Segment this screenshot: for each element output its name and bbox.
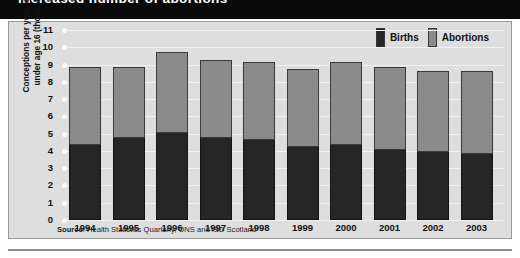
bar-segment-births[interactable] [374,149,406,220]
title-banner: increased number of abortions [0,0,520,19]
bar-segment-abortions[interactable] [69,67,101,145]
y-axis-tick-label: 5 [13,128,53,139]
y-axis-tick-label: 4 [13,145,53,156]
y-axis-tick-label: 11 [13,24,53,35]
y-axis-tick-label: 1 [13,197,53,208]
y-axis-tick-label: 10 [13,41,53,52]
x-axis-tick-label: 2000 [323,222,369,233]
page-title: increased number of abortions [18,0,228,6]
bar-segment-births[interactable] [69,144,101,220]
bar-segment-abortions[interactable] [243,62,275,140]
chart-figure: increased number of abortions Births Abo… [0,0,520,258]
bottom-divider [8,249,512,251]
source-text: : Health Statistics Quarterly, ONS and I… [83,225,256,234]
bar-segment-abortions[interactable] [113,67,145,138]
y-axis-tick-label: 6 [13,110,53,121]
bar-segment-births[interactable] [113,137,145,220]
bars-area: 1994199519961997199819992000200120022003 [66,30,504,220]
x-axis-tick-label: 2001 [367,222,413,233]
gridline [66,220,504,221]
bar-segment-births[interactable] [287,146,319,220]
x-axis-tick-label: 2002 [410,222,456,233]
source-prefix: Source [57,225,83,234]
bar-segment-births[interactable] [417,151,449,220]
bar-segment-abortions[interactable] [330,62,362,145]
chart-panel: Births Abortions Conceptions per year to… [8,21,512,239]
bar-segment-births[interactable] [330,144,362,220]
bar-segment-abortions[interactable] [200,60,232,138]
bar-segment-abortions[interactable] [461,71,493,154]
y-axis-tick-label: 3 [13,162,53,173]
x-axis-tick-label: 2003 [454,222,500,233]
bar-segment-abortions[interactable] [156,52,188,133]
x-axis-tick-label: 1999 [280,222,326,233]
bar-segment-abortions[interactable] [287,69,319,147]
y-axis-tick-label: 7 [13,93,53,104]
bar-segment-births[interactable] [461,153,493,220]
bar-segment-births[interactable] [200,137,232,220]
source-note: Source: Health Statistics Quarterly, ONS… [57,225,256,234]
bar-segment-births[interactable] [243,139,275,220]
y-axis-tick-label: 9 [13,59,53,70]
y-axis-tick-label: 2 [13,179,53,190]
y-axis-tick-label: 8 [13,76,53,87]
bar-segment-abortions[interactable] [374,67,406,150]
bar-segment-abortions[interactable] [417,71,449,152]
y-axis-tick-label: 0 [13,214,53,225]
bar-segment-births[interactable] [156,132,188,220]
